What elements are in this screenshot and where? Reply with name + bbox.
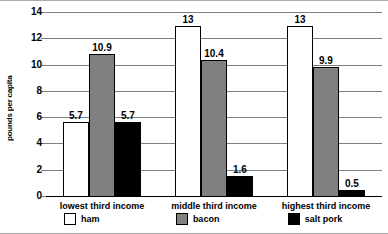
y-tick-label: 10 [31,60,42,70]
bar-value-label: 10.9 [92,43,111,53]
y-tick-label: 12 [31,33,42,43]
bar-value-label: 5.7 [121,111,135,121]
y-tick-label: 8 [36,86,42,96]
legend-label: ham [81,214,100,224]
bar-bacon-2[interactable]: 9.9 [313,67,339,197]
legend-label: bacon [193,214,220,224]
x-axis-group-label: lowest third income [60,201,145,211]
bar-value-label: 5.7 [69,111,83,121]
legend-swatch-bacon [176,213,188,225]
plot-area: 02468101214 5.710.95.7lowest third incom… [46,13,382,197]
y-tick-label: 4 [36,138,42,148]
legend-label: salt pork [305,214,343,224]
bar-group: 5.710.95.7lowest third income [52,13,153,197]
bar-bacon-1[interactable]: 10.4 [201,60,227,197]
chart-container: pounds per capita 02468101214 5.710.95.7… [0,0,388,234]
y-tick-label: 6 [36,112,42,122]
bar-salt-pork-0[interactable]: 5.7 [115,122,141,197]
bar-groups: 5.710.95.7lowest third income1310.41.6mi… [46,13,382,197]
bar-ham-1[interactable]: 13 [175,26,201,197]
legend-swatch-salt [288,213,300,225]
y-tick-label: 2 [36,165,42,175]
bar-ham-0[interactable]: 5.7 [63,122,89,197]
x-axis-line [46,196,382,197]
legend-item-bacon[interactable]: bacon [158,213,270,225]
bar-salt-pork-1[interactable]: 1.6 [227,176,253,197]
bar-value-label: 0.5 [345,179,359,189]
y-axis-title: pounds per capita [2,53,16,163]
chart-legend: hambaconsalt pork [46,211,382,227]
bar-value-label: 13 [294,15,305,25]
bar-value-label: 10.4 [204,49,223,59]
bar-value-label: 1.6 [233,165,247,175]
legend-swatch-ham [64,213,76,225]
x-axis-group-label: highest third income [282,201,371,211]
y-tick-label: 0 [36,191,42,201]
bar-value-label: 13 [182,15,193,25]
bar-ham-2[interactable]: 13 [287,26,313,197]
bar-bacon-0[interactable]: 10.9 [89,54,115,197]
legend-item-ham[interactable]: ham [46,213,158,225]
bar-group: 139.90.5highest third income [276,13,377,197]
bar-group: 1310.41.6middle third income [164,13,265,197]
legend-item-salt[interactable]: salt pork [270,213,382,225]
bar-value-label: 9.9 [319,56,333,66]
y-tick-label: 14 [31,7,42,17]
x-axis-group-label: middle third income [171,201,257,211]
